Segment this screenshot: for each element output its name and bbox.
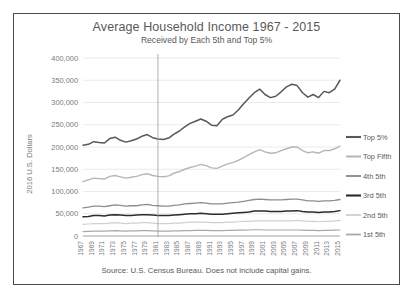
gridlines-group <box>83 58 340 236</box>
x-axis-tick-label: 1977 <box>131 241 138 256</box>
series-line-top-fifth <box>83 146 340 182</box>
source-note: Source: U.S. Census Bureau. Does not inc… <box>14 266 399 275</box>
y-axis-tick-label: 400,000 <box>51 54 78 63</box>
y-axis-tick-label: 300,000 <box>51 98 78 107</box>
legend-label-top-5: Top 5% <box>363 133 388 142</box>
x-axis-tick-label: 1989 <box>195 241 202 256</box>
legend-label-2nd-5th: 2nd 5th <box>363 211 388 220</box>
series-line-top-5 <box>83 80 340 145</box>
x-axis-tick-label: 1993 <box>216 241 223 256</box>
axis-lines-group <box>83 54 340 237</box>
x-axis-ticks-group: 1967196919711973197519771979198119831985… <box>77 241 341 256</box>
y-axis-tick-label: 150,000 <box>51 165 78 174</box>
x-axis-tick-label: 1981 <box>152 241 159 256</box>
legend-label-3rd-5th: 3rd 5th <box>363 191 386 200</box>
x-axis-tick-label: 2007 <box>291 241 298 256</box>
x-axis-tick-label: 2009 <box>302 241 309 256</box>
x-axis-tick-label: 1973 <box>109 241 116 256</box>
x-axis-tick-label: 2011 <box>313 241 320 256</box>
x-axis-tick-label: 1967 <box>77 241 84 256</box>
y-axis-ticks-group: 050,000100,000150,000200,000250,000300,0… <box>51 54 78 241</box>
y-axis-tick-label: 0 <box>74 232 78 241</box>
series-line-2nd-5th <box>83 220 340 224</box>
x-axis-tick-label: 2003 <box>270 241 277 256</box>
x-axis-tick-label: 2015 <box>334 241 341 256</box>
x-axis-tick-label: 1995 <box>227 241 234 256</box>
x-axis-tick-label: 1971 <box>98 241 105 256</box>
x-axis-tick-label: 1999 <box>248 241 255 256</box>
series-line-1st-5th <box>83 230 340 232</box>
line-chart-plot: 050,000100,000150,000200,000250,000300,0… <box>14 14 401 286</box>
x-axis-tick-label: 2013 <box>323 241 330 256</box>
y-axis-title: 2016 U.S. Dollars <box>25 134 34 194</box>
x-axis-tick-label: 2001 <box>259 241 266 256</box>
x-axis-tick-label: 1983 <box>163 241 170 256</box>
legend-label-1st-5th: 1st 5th <box>363 230 385 239</box>
x-axis-tick-label: 1975 <box>120 241 127 256</box>
y-axis-tick-label: 50,000 <box>55 209 78 218</box>
series-line-4th-5th <box>83 199 340 208</box>
chart-card: Average Household Income 1967 - 2015 Rec… <box>13 13 400 285</box>
y-axis-tick-label: 250,000 <box>51 120 78 129</box>
legend-label-4th-5th: 4th 5th <box>363 172 386 181</box>
y-axis-tick-label: 100,000 <box>51 187 78 196</box>
x-axis-tick-label: 1997 <box>238 241 245 256</box>
y-axis-tick-label: 350,000 <box>51 76 78 85</box>
x-axis-tick-label: 1969 <box>88 241 95 256</box>
chart-legend: Top 5%Top Fifth4th 5th3rd 5th2nd 5th1st … <box>346 133 391 240</box>
x-axis-tick-label: 1985 <box>173 241 180 256</box>
x-axis-tick-label: 2005 <box>280 241 287 256</box>
series-group <box>83 80 340 231</box>
x-axis-tick-label: 1987 <box>184 241 191 256</box>
legend-label-top-fifth: Top Fifth <box>363 152 391 161</box>
x-axis-tick-label: 1979 <box>141 241 148 256</box>
y-axis-tick-label: 200,000 <box>51 143 78 152</box>
x-axis-tick-label: 1991 <box>206 241 213 256</box>
